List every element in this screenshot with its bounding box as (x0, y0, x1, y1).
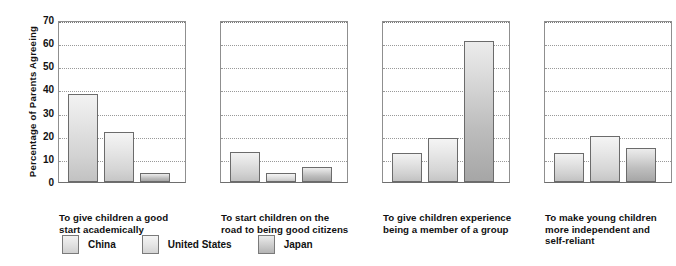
legend-swatch-icon (142, 235, 159, 254)
plot-area (544, 21, 672, 183)
caption-line: road to being good citizens (221, 224, 371, 236)
y-axis-tick-50: 50 (43, 62, 54, 72)
caption-line: To give children experience (383, 212, 533, 224)
bar-china[interactable] (230, 152, 260, 182)
caption-line: To make young children (545, 212, 676, 224)
legend-swatch-icon (258, 235, 275, 254)
chart-figure: Percentage of Parents Agreeing 706050403… (0, 0, 676, 266)
panel-academic-start (58, 21, 186, 183)
bar-china[interactable] (68, 94, 98, 182)
bar-united-states[interactable] (590, 136, 620, 182)
caption-line: start academically (59, 224, 209, 236)
panel-group-member (382, 21, 510, 183)
legend-label: United States (168, 239, 232, 250)
legend-label: China (88, 239, 116, 250)
y-axis-tick-30: 30 (43, 109, 54, 119)
bar-group (545, 22, 671, 182)
legend-item-china[interactable]: China (62, 235, 116, 254)
caption-line: more independent and (545, 224, 676, 236)
y-axis-tick-0: 0 (48, 178, 54, 188)
bar-united-states[interactable] (428, 138, 458, 182)
y-axis-tick-10: 10 (43, 155, 54, 165)
caption-line: To give children a good (59, 212, 209, 224)
bar-china[interactable] (392, 153, 422, 182)
category-caption: To give children a goodstart academicall… (59, 212, 209, 235)
bar-group (221, 22, 347, 182)
plot-area (382, 21, 510, 183)
legend-swatch-icon (62, 235, 79, 254)
panel-good-citizens (220, 21, 348, 183)
caption-line: being a member of a group (383, 224, 533, 236)
category-caption: To give children experiencebeing a membe… (383, 212, 533, 235)
y-axis-tick-70: 70 (43, 16, 54, 26)
bar-japan[interactable] (302, 167, 332, 182)
bar-group (59, 22, 185, 182)
bar-united-states[interactable] (266, 173, 296, 182)
y-axis-tick-60: 60 (43, 39, 54, 49)
category-caption: To make young childrenmore independent a… (545, 212, 676, 247)
bar-japan[interactable] (626, 148, 656, 182)
bar-china[interactable] (554, 153, 584, 182)
bar-united-states[interactable] (104, 132, 134, 182)
bar-group (383, 22, 509, 182)
caption-line: self-reliant (545, 235, 676, 247)
plot-area (220, 21, 348, 183)
legend-label: Japan (284, 239, 313, 250)
chart-legend: ChinaUnited StatesJapan (62, 235, 339, 254)
caption-line: To start children on the (221, 212, 371, 224)
bar-japan[interactable] (140, 173, 170, 182)
plot-area (58, 21, 186, 183)
y-axis-tick-20: 20 (43, 132, 54, 142)
bar-japan[interactable] (464, 41, 494, 182)
panel-row: To give children a goodstart academicall… (58, 21, 672, 183)
y-axis-tick-labels: 706050403020100 (30, 21, 54, 183)
category-caption: To start children on theroad to being go… (221, 212, 371, 235)
legend-item-japan[interactable]: Japan (258, 235, 313, 254)
legend-item-united-states[interactable]: United States (142, 235, 232, 254)
panel-independent (544, 21, 672, 183)
y-axis-tick-40: 40 (43, 85, 54, 95)
